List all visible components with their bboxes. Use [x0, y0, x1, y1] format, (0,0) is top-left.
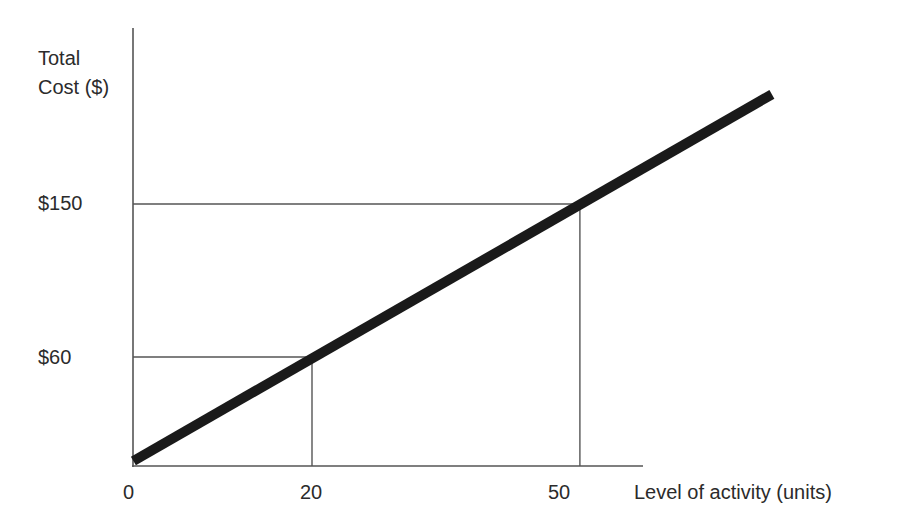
- total-cost-line: [133, 94, 771, 461]
- y-axis-title-line1: Total: [38, 46, 80, 70]
- x-tick-0: 0: [123, 480, 134, 504]
- y-axis-title-line2: Cost ($): [38, 75, 109, 99]
- y-tick-60: $60: [38, 345, 71, 369]
- x-tick-50: 50: [548, 480, 570, 504]
- x-tick-20: 20: [300, 480, 322, 504]
- chart-canvas: [0, 0, 900, 525]
- y-tick-150: $150: [38, 191, 83, 215]
- x-axis-title: Level of activity (units): [634, 480, 832, 504]
